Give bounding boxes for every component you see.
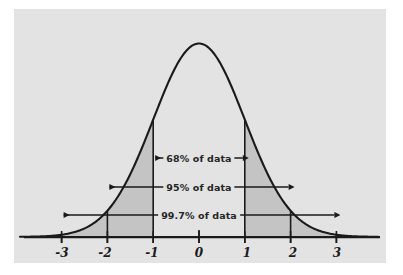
x-tick-label-pos3: 3 xyxy=(333,246,341,260)
x-tick-label-neg1: -1 xyxy=(145,246,158,260)
normal-distribution-chart xyxy=(0,0,403,275)
x-tick-label-pos1: 1 xyxy=(243,246,251,260)
x-tick-label-pos2: 2 xyxy=(289,246,297,260)
x-tick-label-neg2: -2 xyxy=(98,246,111,260)
x-tick-label-neg3: -3 xyxy=(55,246,68,260)
shaded-left-tail xyxy=(34,120,153,237)
x-tick-label-zero: 0 xyxy=(195,246,203,260)
shaded-right-tail xyxy=(245,120,364,237)
annotation-label-95: 95% of data xyxy=(163,182,234,193)
empirical-rule-figure: 68% of data 95% of data 99.7% of data -3… xyxy=(0,0,403,275)
bell-curve-main xyxy=(20,44,378,237)
annotation-label-997: 99.7% of data xyxy=(158,210,240,221)
annotation-label-68: 68% of data xyxy=(163,153,234,164)
